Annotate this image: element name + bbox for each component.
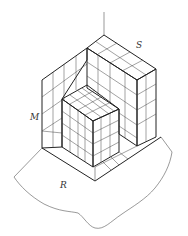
face-S-top xyxy=(87,35,156,80)
face-S-inner-grid xyxy=(87,55,137,138)
face-S-right-grid xyxy=(137,75,156,142)
label-R: R xyxy=(60,180,67,190)
label-M: M xyxy=(30,112,39,122)
small-cube-top-grid xyxy=(70,88,114,117)
label-S: S xyxy=(136,40,142,50)
face-S-right xyxy=(137,69,156,146)
small-cube-right xyxy=(93,109,119,167)
small-cube-left xyxy=(62,99,93,167)
isometric-block-diagram xyxy=(0,0,188,236)
